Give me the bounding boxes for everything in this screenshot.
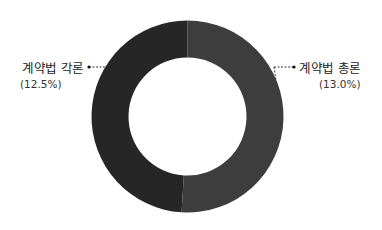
slice-percent-contract-law-general: (13.0%) <box>319 78 361 90</box>
donut-slice-right <box>182 21 284 213</box>
leader-dot-left <box>87 65 90 68</box>
donut-chart <box>0 0 382 230</box>
slice-label-contract-law-general: 계약법 총론 <box>299 58 361 77</box>
slice-label-contract-law-specific: 계약법 각론 <box>22 58 84 77</box>
leader-dot-right <box>292 65 295 68</box>
donut-slice-left <box>91 21 187 213</box>
slice-percent-contract-law-specific: (12.5%) <box>20 78 62 90</box>
donut-slices <box>91 21 283 213</box>
